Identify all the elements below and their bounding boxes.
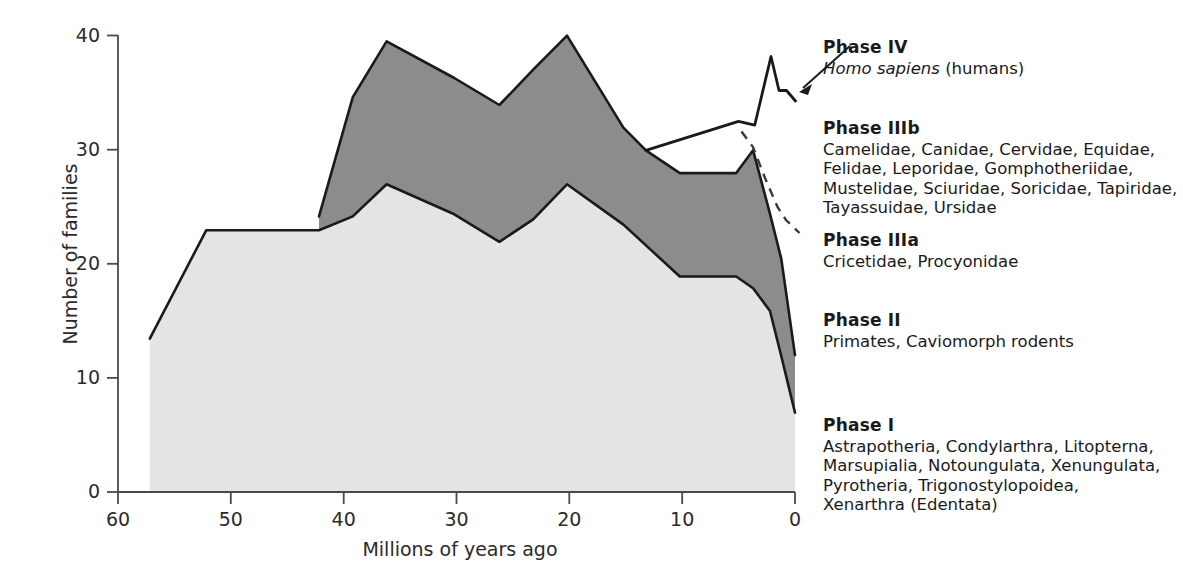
x-tick-label-20: 20 bbox=[539, 508, 599, 530]
annotation-phase-iiia: Phase IIIa Cricetidae, Procyonidae bbox=[823, 231, 1018, 271]
phase-ii-title: Phase II bbox=[823, 311, 1074, 331]
phase-iiib-body: Camelidae, Canidae, Cervidae, Equidae, F… bbox=[823, 140, 1177, 218]
y-tick-label-10: 10 bbox=[45, 366, 100, 388]
phase-iiia-body: Cricetidae, Procyonidae bbox=[823, 252, 1018, 272]
annotation-phase-ii: Phase II Primates, Caviomorph rodents bbox=[823, 311, 1074, 351]
phase-ii-body: Primates, Caviomorph rodents bbox=[823, 332, 1074, 352]
annotation-phase-iv: Phase IV Homo sapiens (humans) bbox=[823, 38, 1024, 78]
phase-iv-species-italic: Homo sapiens bbox=[823, 59, 940, 78]
phase-i-title: Phase I bbox=[823, 416, 1160, 436]
chart-figure: 40 30 20 10 0 60 50 40 30 20 10 0 Number… bbox=[0, 0, 1183, 580]
x-tick-label-60: 60 bbox=[88, 508, 148, 530]
y-axis-title: Number of families bbox=[59, 144, 81, 364]
y-axis-ticks bbox=[107, 36, 118, 493]
x-axis-title: Millions of years ago bbox=[290, 538, 630, 560]
x-tick-label-0: 0 bbox=[765, 508, 825, 530]
line-phase-iv-total bbox=[646, 57, 796, 151]
phase-iv-title: Phase IV bbox=[823, 38, 1024, 58]
phase-iv-species-rest: (humans) bbox=[940, 59, 1024, 78]
annotation-phase-iiib: Phase IIIb Camelidae, Canidae, Cervidae,… bbox=[823, 119, 1177, 218]
x-tick-label-40: 40 bbox=[314, 508, 374, 530]
x-tick-label-50: 50 bbox=[201, 508, 261, 530]
phase-iv-species: Homo sapiens (humans) bbox=[823, 59, 1024, 79]
phase-iiib-title: Phase IIIb bbox=[823, 119, 1177, 139]
y-tick-label-0: 0 bbox=[45, 480, 100, 502]
annotation-phase-i: Phase I Astrapotheria, Condylarthra, Lit… bbox=[823, 416, 1160, 515]
x-tick-label-30: 30 bbox=[427, 508, 487, 530]
phase-i-body: Astrapotheria, Condylarthra, Litopterna,… bbox=[823, 437, 1160, 515]
x-tick-label-10: 10 bbox=[652, 508, 712, 530]
phase-iiia-title: Phase IIIa bbox=[823, 231, 1018, 251]
x-axis-ticks bbox=[118, 492, 795, 504]
y-tick-label-40: 40 bbox=[45, 24, 100, 46]
